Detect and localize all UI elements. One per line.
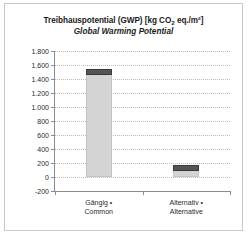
chart-subtitle: Global Warming Potential bbox=[5, 26, 242, 37]
chart-card: Treibhauspotential (GWP) [kg CO2 eq./m²]… bbox=[4, 3, 243, 231]
y-axis-tick-label: -200 bbox=[35, 188, 49, 195]
chart-title-block: Treibhauspotential (GWP) [kg CO2 eq./m²]… bbox=[5, 15, 242, 37]
chart-title-tail: eq./m²] bbox=[175, 16, 204, 25]
y-axis-tick-label: 200 bbox=[37, 160, 49, 167]
x-axis-label-line: Common bbox=[85, 207, 113, 216]
x-axis-category-label: Alternativ •Alternative bbox=[169, 198, 203, 216]
y-axis-tick-label: 400 bbox=[37, 146, 49, 153]
plot-area: 1.8001.6001.4001.2001.0008006004002000-2… bbox=[54, 51, 230, 192]
x-axis-label-line: Gängig • bbox=[85, 198, 113, 207]
bar-group bbox=[143, 51, 231, 191]
y-axis-tick-label: 800 bbox=[37, 118, 49, 125]
x-axis-label-line: Alternativ • bbox=[169, 198, 203, 207]
bar-cap bbox=[173, 165, 199, 171]
bar bbox=[86, 69, 112, 178]
bar-cap bbox=[86, 69, 112, 75]
bar-group bbox=[55, 51, 143, 191]
x-axis-tick bbox=[55, 191, 56, 195]
x-axis-label-line: Alternative bbox=[169, 207, 203, 216]
x-axis-category-label: Gängig •Common bbox=[85, 198, 113, 216]
y-axis-tick-label: 0 bbox=[45, 174, 49, 181]
chart-title-subscript: 2 bbox=[171, 19, 174, 26]
y-axis-tick-label: 1.000 bbox=[31, 104, 49, 111]
y-axis-tick-label: 1.600 bbox=[31, 62, 49, 69]
y-axis-tick-label: 600 bbox=[37, 132, 49, 139]
y-axis-tick-label: 1.400 bbox=[31, 76, 49, 83]
x-axis-tick bbox=[230, 191, 231, 195]
chart-title-main: Treibhauspotential (GWP) [kg CO bbox=[44, 16, 172, 25]
page-title: Treibhauspotential (GWP) [kg CO2 eq./m²] bbox=[5, 15, 242, 26]
y-axis-tick-label: 1.200 bbox=[31, 90, 49, 97]
x-axis-tick bbox=[143, 191, 144, 195]
y-axis-tick-label: 1.800 bbox=[31, 48, 49, 55]
